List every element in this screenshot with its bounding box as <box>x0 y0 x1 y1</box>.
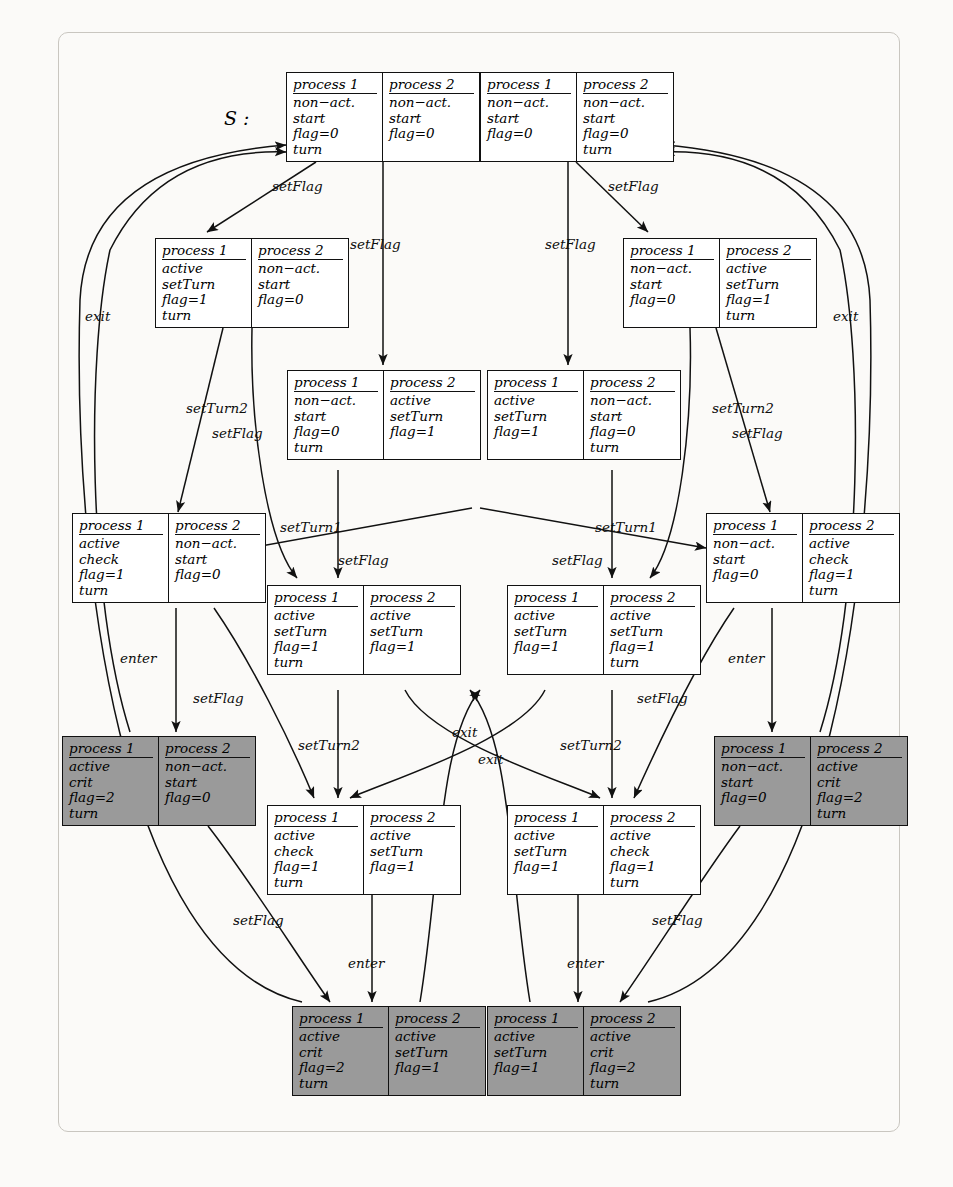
col-header-process2: process 2 <box>583 76 668 94</box>
node-line: start <box>721 775 805 791</box>
edge-label: setTurn1 <box>280 519 342 535</box>
node-line: active <box>370 608 455 624</box>
node-line: non−act. <box>165 759 250 775</box>
node-line: flag=0 <box>713 567 797 583</box>
edge-label: setFlag <box>608 178 659 194</box>
col-header-process1: process 1 <box>69 740 153 758</box>
col-header-process1: process 1 <box>293 76 377 94</box>
node-line: setTurn <box>395 1045 480 1061</box>
col-header-process2: process 2 <box>395 1010 480 1028</box>
node-line: active <box>494 393 578 409</box>
node-line: flag=2 <box>299 1060 383 1076</box>
node-line: check <box>610 844 695 860</box>
state-node[interactable]: process 1 active setTurn flag=1 turn pro… <box>155 238 349 328</box>
node-line: setTurn <box>370 624 455 640</box>
state-node[interactable]: process 1 non−act. start flag=0 process … <box>480 72 674 162</box>
node-line: setTurn <box>726 277 811 293</box>
edge-label: setFlag <box>637 690 688 706</box>
node-col-process2: process 2 active setTurn flag=1 <box>389 1007 485 1095</box>
node-line: flag=1 <box>809 567 894 583</box>
state-node-critical[interactable]: process 1 active setTurn flag=1 process … <box>487 1006 681 1096</box>
state-node[interactable]: process 1 non−act. start flag=0 turn pro… <box>287 370 481 460</box>
node-line: non−act. <box>258 261 343 277</box>
edge-label: setFlag <box>350 236 401 252</box>
node-col-process2: process 2 non−act. start flag=0 <box>159 737 255 825</box>
edge-label: exit <box>833 308 858 324</box>
node-line: flag=0 <box>293 126 377 142</box>
node-line: setTurn <box>494 1045 578 1061</box>
edge-label: enter <box>728 650 765 666</box>
node-line: flag=1 <box>370 859 455 875</box>
node-line: crit <box>590 1045 675 1061</box>
node-line: active <box>299 1029 383 1045</box>
edge-label: exit <box>478 751 503 767</box>
node-line: non−act. <box>175 536 260 552</box>
node-col-process1: process 1 non−act. start flag=0 turn <box>288 371 384 459</box>
node-line: flag=1 <box>274 639 358 655</box>
edge-label: exit <box>85 308 110 324</box>
state-node-critical[interactable]: process 1 active crit flag=2 turn proces… <box>292 1006 486 1096</box>
state-node[interactable]: process 1 non−act. start flag=0 process … <box>623 238 817 328</box>
node-line: non−act. <box>294 393 378 409</box>
node-line: flag=0 <box>175 567 260 583</box>
state-node[interactable]: process 1 active setTurn flag=1 turn pro… <box>267 585 461 675</box>
node-line: active <box>726 261 811 277</box>
node-line: start <box>293 111 377 127</box>
node-line: turn <box>299 1076 383 1092</box>
node-col-process1: process 1 active setTurn flag=1 <box>508 806 604 894</box>
col-header-process1: process 1 <box>274 809 358 827</box>
node-line: flag=0 <box>487 126 571 142</box>
col-header-process2: process 2 <box>175 517 260 535</box>
node-col-process1: process 1 active setTurn flag=1 turn <box>156 239 252 327</box>
edge-label: setTurn2 <box>298 737 360 753</box>
node-line: flag=0 <box>165 790 250 806</box>
node-line: active <box>514 608 598 624</box>
node-col-process1: process 1 non−act. start flag=0 <box>624 239 720 327</box>
node-line: setTurn <box>514 624 598 640</box>
node-line: non−act. <box>583 95 668 111</box>
node-line: flag=0 <box>294 424 378 440</box>
state-node[interactable]: process 1 active check flag=1 turn proce… <box>72 513 266 603</box>
col-header-process1: process 1 <box>494 1010 578 1028</box>
state-node[interactable]: process 1 non−act. start flag=0 turn pro… <box>286 72 480 162</box>
node-line: flag=0 <box>721 790 805 806</box>
node-line: non−act. <box>487 95 571 111</box>
col-header-process2: process 2 <box>165 740 250 758</box>
node-line: active <box>809 536 894 552</box>
node-line: check <box>274 844 358 860</box>
node-line: flag=1 <box>274 859 358 875</box>
edge-label: setFlag <box>732 425 783 441</box>
node-line: active <box>162 261 246 277</box>
node-line: flag=1 <box>395 1060 480 1076</box>
node-line: flag=2 <box>69 790 153 806</box>
state-node-critical[interactable]: process 1 active crit flag=2 turn proces… <box>62 736 256 826</box>
node-line: flag=1 <box>162 292 246 308</box>
node-line: active <box>817 759 902 775</box>
node-line: crit <box>69 775 153 791</box>
state-node-critical[interactable]: process 1 non−act. start flag=0 process … <box>714 736 908 826</box>
node-col-process2: process 2 non−act. start flag=0 <box>383 73 479 161</box>
edge-label: setFlag <box>652 912 703 928</box>
node-col-process1: process 1 active check flag=1 turn <box>268 806 364 894</box>
node-col-process1: process 1 active crit flag=2 turn <box>63 737 159 825</box>
node-line: start <box>713 552 797 568</box>
state-node[interactable]: process 1 active setTurn flag=1 process … <box>487 370 681 460</box>
node-line: turn <box>79 583 163 599</box>
node-line: turn <box>162 308 246 324</box>
node-line: active <box>79 536 163 552</box>
state-node[interactable]: process 1 active setTurn flag=1 process … <box>507 585 701 675</box>
node-line: crit <box>299 1045 383 1061</box>
node-line: active <box>69 759 153 775</box>
col-header-process2: process 2 <box>258 242 343 260</box>
col-header-process1: process 1 <box>514 589 598 607</box>
edge-label: setFlag <box>272 178 323 194</box>
edge-label: setFlag <box>338 552 389 568</box>
node-line: active <box>514 828 598 844</box>
state-node[interactable]: process 1 non−act. start flag=0 process … <box>706 513 900 603</box>
state-node[interactable]: process 1 active setTurn flag=1 process … <box>507 805 701 895</box>
node-line: flag=1 <box>494 1060 578 1076</box>
node-line: active <box>610 828 695 844</box>
node-line: flag=1 <box>726 292 811 308</box>
col-header-process1: process 1 <box>299 1010 383 1028</box>
state-node[interactable]: process 1 active check flag=1 turn proce… <box>267 805 461 895</box>
